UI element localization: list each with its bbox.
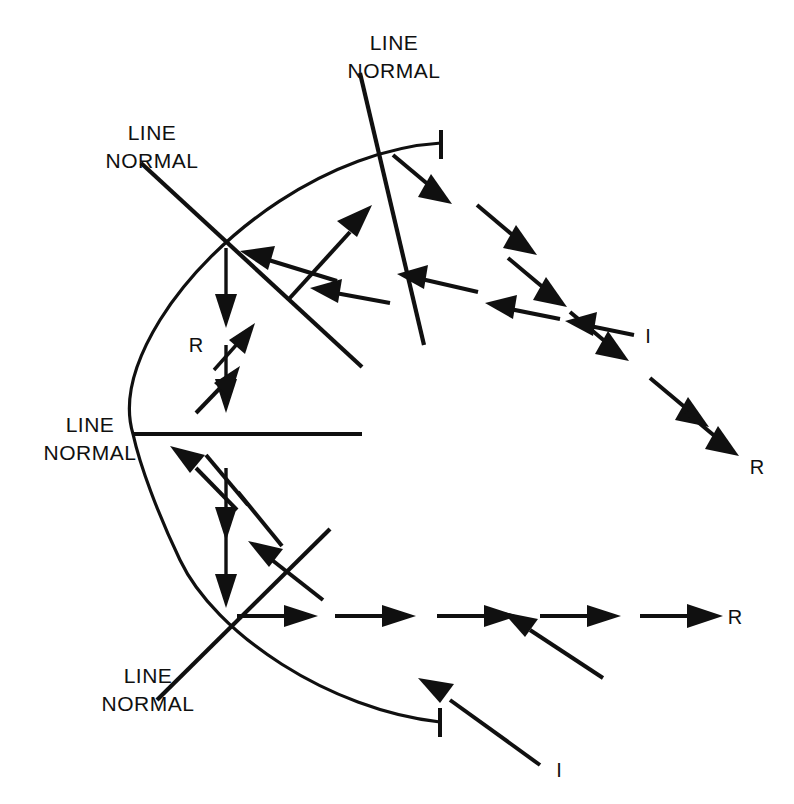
label-line-normal-upper-left-line1: LINE — [128, 121, 177, 144]
label-reflected-upper-right: R — [750, 456, 764, 478]
label-line-normal-lower-left-line1: LINE — [124, 664, 173, 687]
arrowhead-lower-reflected-1 — [284, 605, 318, 627]
arrowhead-lower-reflected-5 — [687, 604, 723, 628]
arrowhead-upper-left-reflected-1 — [337, 205, 372, 237]
label-reflected-inner: R — [189, 334, 203, 356]
arrowhead-upper-incident-2 — [485, 295, 517, 319]
arrowhead-inner-down-1 — [215, 294, 237, 328]
arrowhead-lower-reflected-2 — [382, 605, 416, 627]
arrowhead-upper-incident-1 — [397, 265, 428, 289]
lower-reflected-ray — [237, 604, 723, 628]
text-labels-group: LINE NORMAL LINE NORMAL LINE NORMAL LINE… — [44, 31, 765, 781]
label-line-normal-upper-left-line2: NORMAL — [106, 149, 199, 172]
label-incident-upper: I — [645, 325, 651, 347]
upper-reflected-ray — [393, 155, 739, 456]
label-line-normal-middle-left-line2: NORMAL — [44, 441, 137, 464]
label-incident-lower: I — [556, 759, 562, 781]
label-line-normal-top-line1: LINE — [370, 31, 419, 54]
label-line-normal-lower-left-line2: NORMAL — [102, 692, 195, 715]
reflection-diagram-canvas: LINE NORMAL LINE NORMAL LINE NORMAL LINE… — [0, 0, 794, 804]
ray-diagram-svg: LINE NORMAL LINE NORMAL LINE NORMAL LINE… — [0, 0, 794, 804]
arrowhead-upper-incident-4 — [310, 279, 342, 303]
lower-incident-ray — [248, 541, 603, 765]
label-line-normal-top-line2: NORMAL — [348, 59, 441, 82]
arrowhead-inner-upleft-1 — [170, 446, 205, 473]
normal-line-upper-left — [141, 163, 362, 367]
arrowhead-inner-down-4 — [215, 574, 237, 608]
arrowhead-lower-reflected-4 — [587, 605, 621, 627]
upper-incident-ray — [240, 246, 634, 336]
label-reflected-lower-right: R — [728, 606, 742, 628]
label-line-normal-middle-left-line1: LINE — [66, 413, 115, 436]
arrowhead-lower-incident-1 — [418, 678, 454, 703]
arrowhead-lower-reflected-3 — [484, 605, 518, 627]
